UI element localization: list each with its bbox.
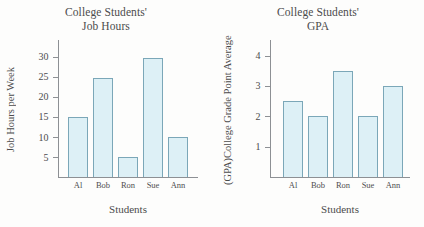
- y-axis-tick-label: 15: [39, 112, 49, 122]
- bar-group-job-hours: Al Bob Ron Sue Ann: [58, 42, 198, 177]
- y-axis-tick-label: 2: [256, 112, 261, 122]
- y-axis-tick-label: 3: [256, 81, 261, 91]
- chart-title-line: GPA: [212, 20, 424, 34]
- y-axis-tick-label: 1: [256, 142, 261, 152]
- y-axis-title-job-hours: Job Hours per Week: [4, 42, 18, 178]
- bar-slot: Bob: [93, 42, 113, 177]
- y-axis-title-line: Job Hours per Week: [5, 68, 17, 153]
- chart-title-gpa: College Students' GPA: [212, 6, 424, 33]
- bar-sue[interactable]: [358, 116, 378, 177]
- chart-title-line: Job Hours: [0, 20, 212, 34]
- bar-group-gpa: Al Bob Ron Sue Ann: [270, 42, 410, 177]
- bar-al[interactable]: [68, 117, 88, 177]
- bar-ron[interactable]: [333, 71, 353, 177]
- bar-ann[interactable]: [168, 137, 188, 177]
- chart-title-line: College Students': [0, 6, 212, 20]
- chart-panel-gpa: College Students' GPA (GPA) College Grad…: [212, 0, 424, 227]
- bar-bob[interactable]: [93, 78, 113, 177]
- chart-title-line: College Students': [212, 6, 424, 20]
- y-axis-tick-label: 20: [39, 92, 49, 102]
- y-axis-title-line: (GPA): [222, 158, 234, 185]
- x-axis-tick-label: Ann: [386, 181, 401, 190]
- bar-slot: Ron: [333, 42, 353, 177]
- x-axis-title-job-hours: Students: [58, 203, 198, 215]
- x-axis-tick-label: Sue: [147, 181, 160, 190]
- bar-al[interactable]: [283, 101, 303, 177]
- y-axis-tick-label: 25: [39, 72, 49, 82]
- bar-slot: Ann: [168, 42, 188, 177]
- x-axis-tick-label: Ann: [171, 181, 186, 190]
- x-axis-tick-label: Al: [289, 181, 298, 190]
- y-axis-tick-label: 30: [39, 52, 49, 62]
- y-axis-title-line: College Grade Point Average: [222, 35, 234, 158]
- y-axis-tick-label: 4: [256, 51, 261, 61]
- bar-slot: Al: [68, 42, 88, 177]
- bar-slot: Al: [283, 42, 303, 177]
- y-axis-title-gpa: (GPA) College Grade Point Average: [214, 42, 242, 178]
- y-axis-tick-label: 5: [44, 153, 49, 163]
- two-bar-charts-figure: College Students' Job Hours Job Hours pe…: [0, 0, 424, 227]
- bar-slot: Bob: [308, 42, 328, 177]
- x-axis-tick-label: Ron: [121, 181, 135, 190]
- bar-bob[interactable]: [308, 116, 328, 177]
- chart-title-job-hours: College Students' Job Hours: [0, 6, 212, 33]
- chart-panel-job-hours: College Students' Job Hours Job Hours pe…: [0, 0, 212, 227]
- bar-slot: Sue: [143, 42, 163, 177]
- y-axis-tick-label: 10: [39, 133, 49, 143]
- plot-area-gpa: 4 3 2 1 Al Bob: [270, 42, 410, 178]
- bar-slot: Sue: [358, 42, 378, 177]
- x-axis-tick-label: Ron: [336, 181, 350, 190]
- x-axis-tick-label: Bob: [96, 181, 110, 190]
- x-axis-tick-label: Sue: [362, 181, 375, 190]
- bar-ron[interactable]: [118, 157, 138, 177]
- x-axis-tick-label: Al: [74, 181, 83, 190]
- bar-sue[interactable]: [143, 58, 163, 177]
- bar-ann[interactable]: [383, 86, 403, 177]
- x-axis-title-gpa: Students: [270, 203, 410, 215]
- bar-slot: Ron: [118, 42, 138, 177]
- x-axis-tick-label: Bob: [311, 181, 325, 190]
- plot-area-job-hours: 30 25 20 15 10 5 Al: [58, 42, 198, 178]
- bar-slot: Ann: [383, 42, 403, 177]
